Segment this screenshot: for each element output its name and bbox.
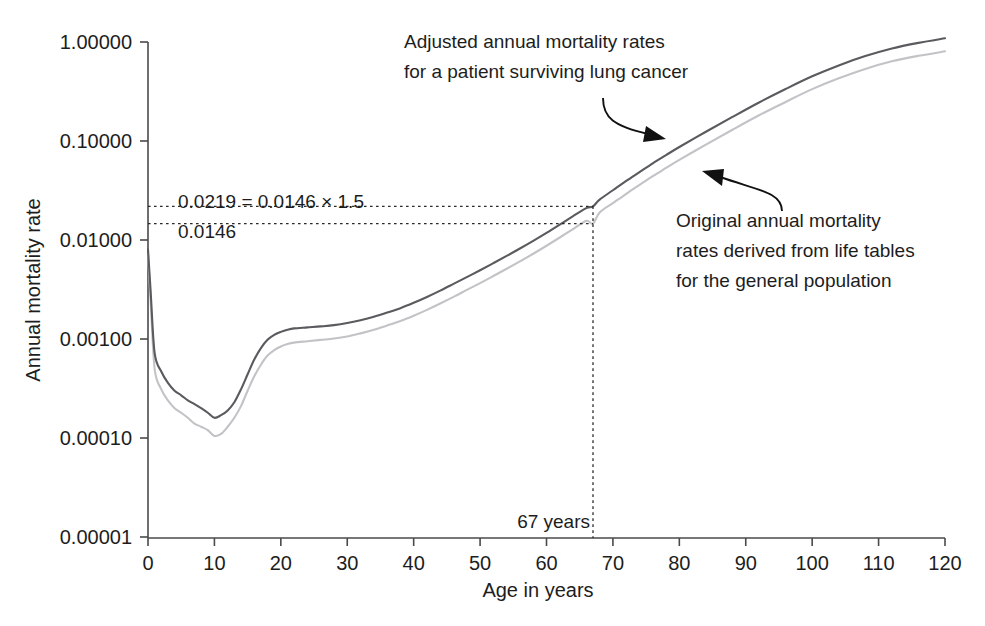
x-axis-title: Age in years bbox=[482, 579, 593, 601]
original-callout-line-3: for the general population bbox=[676, 270, 892, 291]
y-tick-label: 1.00000 bbox=[60, 31, 132, 53]
lower-value-label: 0.0146 bbox=[178, 221, 236, 242]
x-tick-label: 50 bbox=[469, 552, 491, 574]
reference-guides bbox=[148, 206, 593, 538]
age-marker-label: 67 years bbox=[517, 511, 590, 532]
y-tick-label: 0.00100 bbox=[60, 328, 132, 350]
adjusted-callout-arrow-head bbox=[643, 126, 666, 142]
x-tick-label: 110 bbox=[863, 552, 895, 574]
original-callout-line-2: rates derived from life tables bbox=[676, 240, 915, 261]
original-callout: Original annual mortality rates derived … bbox=[676, 169, 915, 291]
x-tick-label: 90 bbox=[735, 552, 757, 574]
x-axis-ticks: 0102030405060708090100110120 bbox=[142, 538, 961, 574]
x-tick-label: 100 bbox=[795, 552, 828, 574]
y-axis-title: Annual mortality rate bbox=[22, 198, 44, 381]
x-tick-label: 20 bbox=[270, 552, 292, 574]
y-tick-label: 0.10000 bbox=[60, 130, 132, 152]
original-callout-line-1: Original annual mortality bbox=[676, 210, 881, 231]
adjusted-callout-line-1: Adjusted annual mortality rates bbox=[404, 31, 665, 52]
x-tick-label: 60 bbox=[535, 552, 557, 574]
x-tick-label: 120 bbox=[928, 552, 961, 574]
x-tick-label: 10 bbox=[203, 552, 225, 574]
upper-value-label: 0.0219 = 0.0146 × 1.5 bbox=[178, 191, 364, 212]
x-tick-label: 30 bbox=[336, 552, 358, 574]
original-callout-arrow-head bbox=[702, 169, 724, 186]
adjusted-callout-arrow-line bbox=[603, 98, 648, 134]
original-callout-arrow-line bbox=[720, 177, 782, 211]
chart-figure: 1.00000 0.10000 0.01000 0.00100 0.00010 … bbox=[0, 0, 985, 626]
mortality-rate-chart: 1.00000 0.10000 0.01000 0.00100 0.00010 … bbox=[0, 0, 985, 626]
y-tick-label: 0.00010 bbox=[60, 427, 132, 449]
x-tick-label: 0 bbox=[142, 552, 153, 574]
y-axis-tick-labels: 1.00000 0.10000 0.01000 0.00100 0.00010 … bbox=[60, 31, 132, 548]
x-tick-label: 40 bbox=[403, 552, 425, 574]
y-axis-ticks bbox=[140, 42, 148, 537]
y-tick-label: 0.01000 bbox=[60, 229, 132, 251]
adjusted-callout: Adjusted annual mortality rates for a pa… bbox=[404, 31, 689, 142]
adjusted-callout-line-2: for a patient surviving lung cancer bbox=[404, 61, 689, 82]
x-tick-label: 80 bbox=[668, 552, 690, 574]
x-tick-label: 70 bbox=[602, 552, 624, 574]
y-tick-label: 0.00001 bbox=[60, 526, 132, 548]
